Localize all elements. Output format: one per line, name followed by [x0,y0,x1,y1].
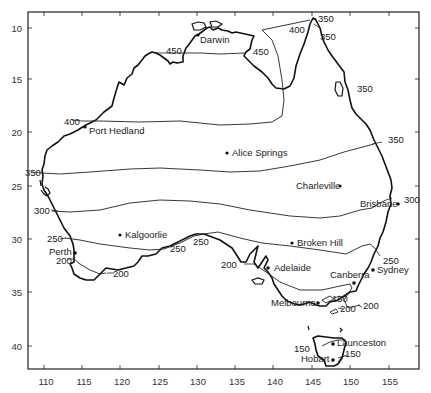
city-label-charleville: Charleville [296,180,340,191]
y-tick-label: 30 [11,234,22,245]
x-tick-label: 145 [305,376,321,387]
x-tick-label: 120 [114,376,130,387]
isoline-label: 450 [166,45,182,56]
kangaroo-island [252,278,264,284]
mainland-coastline [42,18,392,306]
isoline-350 [42,144,374,174]
isoline-label: 400 [64,116,80,127]
city-marker-canberra [352,281,356,285]
x-tick-label: 125 [152,376,168,387]
city-label-brisbane: Brisbane [360,198,398,209]
isoline-300 [52,200,386,218]
y-tick-label: 25 [11,181,22,192]
isoline-label: 400 [289,24,305,35]
city-label-launceston: Launceston [337,337,386,348]
flinders-island [340,328,342,332]
y-tick-label: 15 [11,74,22,85]
city-label-alice-springs: Alice Springs [232,147,288,158]
city-label-darwin: Darwin [200,34,230,45]
australia-isoline-map: 110 115 120 125 130 135 140 145 150 155 … [0,0,431,393]
isoline-label: 350 [318,13,334,24]
isoline-label: 250 [193,236,209,247]
coastal-island [335,82,343,96]
city-label-adelaide: Adelaide [274,262,311,273]
map-frame [28,12,419,369]
isoline-label: 350 [388,134,404,145]
city-label-port-hedland: Port Hedland [89,125,144,136]
city-marker-alice-springs [225,151,228,154]
x-tick-label: 140 [267,376,283,387]
isoline-label: 250 [47,233,63,244]
city-label-canberra: Canberra [330,269,370,280]
isoline-450 [182,53,245,54]
cities: Darwin Port Hedland Alice Springs Charle… [49,33,409,364]
y-tick-label: 40 [11,341,22,352]
isoline-200-vic-loop [330,309,338,314]
x-tick-label: 130 [190,376,206,387]
isoline-label: 300 [404,194,420,205]
isoline-labels: 350 400 350 450 450 350 400 350 350 300 … [25,13,420,359]
x-tick-label: 110 [38,376,53,387]
city-marker-melbourne [316,301,320,305]
isoline-label: 200 [340,303,356,314]
city-marker-adelaide [266,266,270,270]
city-marker-launceston [331,342,335,346]
isoline-label: 350 [357,83,373,94]
city-label-hobart: Hobart [301,353,330,364]
city-label-sydney: Sydney [377,264,409,275]
isolines [42,20,386,362]
city-label-broken-hill: Broken Hill [297,237,343,248]
y-axis: 10 15 20 25 30 35 40 [11,23,419,352]
isoline-label: 200 [113,268,129,279]
isoline-label: 250 [170,243,186,254]
y-tick-label: 35 [11,287,22,298]
isoline-label: 200 [221,259,237,270]
x-tick-label: 150 [343,376,359,387]
city-marker-perth [73,251,77,255]
y-tick-label: 20 [11,127,22,138]
king-island [308,326,309,330]
city-marker-kalgoorlie [118,233,121,236]
city-label-perth: Perth [49,246,72,257]
city-marker-hobart [331,358,335,362]
city-label-melbourne: Melbourne [271,297,316,308]
city-marker-broken-hill [290,241,293,244]
city-label-kalgoorlie: Kalgoorlie [125,229,167,240]
x-tick-label: 155 [382,376,398,387]
isoline-label: 200 [363,300,379,311]
x-tick-label: 115 [76,376,91,387]
city-marker-port-hedland [83,125,86,128]
isoline-label: 150 [345,348,361,359]
isoline-label: 450 [253,46,269,57]
x-tick-label: 135 [229,376,245,387]
city-marker-sydney [371,268,375,272]
isoline-label: 350 [320,31,336,42]
isoline-label: 350 [25,167,41,178]
x-axis: 110 115 120 125 130 135 140 145 150 155 [38,12,398,387]
isoline-label: 150 [332,293,348,304]
isoline-label: 300 [34,205,50,216]
y-tick-label: 10 [11,23,22,34]
